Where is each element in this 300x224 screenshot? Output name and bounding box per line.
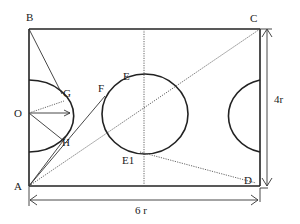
- label-E: E: [123, 70, 130, 82]
- label-D: D: [244, 174, 252, 186]
- radius-OG: [29, 101, 64, 113]
- line-BG: [29, 29, 62, 94]
- width-dimension-label: 6 r: [135, 204, 147, 216]
- line-AH: [29, 137, 66, 186]
- geometry-diagram: B C O G F E H E1 A D 6 r 4r: [0, 0, 300, 224]
- line-E1D: [140, 152, 256, 183]
- label-E1: E1: [122, 154, 134, 166]
- label-B: B: [26, 11, 33, 23]
- label-H: H: [62, 136, 70, 148]
- label-A: A: [14, 180, 22, 192]
- label-C: C: [250, 12, 257, 24]
- label-G: G: [63, 87, 71, 99]
- label-F: F: [98, 82, 104, 94]
- line-AC: [29, 29, 260, 186]
- label-O: O: [14, 107, 22, 119]
- height-dimension: [260, 29, 272, 188]
- right-semicircle: [228, 80, 260, 152]
- center-circle: [102, 74, 188, 154]
- height-dimension-label: 4r: [274, 93, 284, 105]
- radius-OH: [29, 113, 64, 141]
- width-dimension: [29, 186, 260, 206]
